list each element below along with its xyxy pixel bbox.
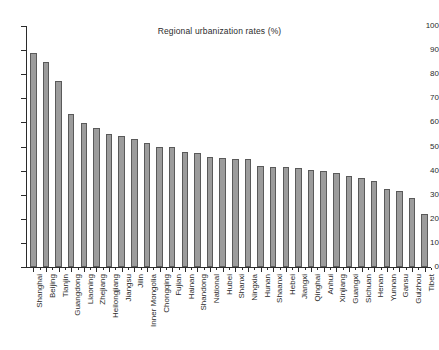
x-axis-tick: [59, 268, 60, 272]
bar[interactable]: [106, 134, 113, 268]
x-axis-tick: [248, 268, 249, 272]
bar[interactable]: [118, 136, 125, 267]
x-axis-tick-label: Fujian: [175, 274, 183, 296]
bars-layer: [27, 26, 431, 267]
x-axis-minor-tick: [280, 268, 281, 270]
x-axis-tick: [172, 268, 173, 272]
bar[interactable]: [169, 147, 176, 267]
bar[interactable]: [384, 189, 391, 267]
x-axis-tick-label: Tibet: [428, 274, 436, 292]
bar[interactable]: [93, 128, 100, 267]
bar[interactable]: [194, 153, 201, 267]
x-axis-minor-tick: [330, 268, 331, 270]
x-axis-tick: [336, 268, 337, 272]
x-axis-minor-tick: [229, 268, 230, 270]
x-axis-tick-label: Heilongjiang: [112, 274, 120, 318]
x-axis-minor-tick: [368, 268, 369, 270]
x-axis-tick-label: Anhui: [327, 274, 335, 294]
x-axis-tick-label: Zhejiang: [99, 274, 107, 305]
bar[interactable]: [320, 171, 327, 267]
x-axis-tick-label: Henan: [377, 274, 385, 298]
bar[interactable]: [421, 214, 428, 267]
bar[interactable]: [156, 147, 163, 267]
x-axis-tick: [185, 268, 186, 272]
x-axis-tick-label: Gansu: [402, 274, 410, 298]
x-axis-tick: [210, 268, 211, 272]
bar[interactable]: [81, 123, 88, 267]
x-axis-tick-label: Guangxi: [352, 274, 360, 304]
y-axis-tick: [21, 147, 26, 148]
x-axis-minor-tick: [418, 268, 419, 270]
x-axis-tick-label: Qinghai: [314, 274, 322, 302]
y-axis-tick: [21, 171, 26, 172]
bar[interactable]: [55, 81, 62, 267]
x-axis-tick: [122, 268, 123, 272]
y-axis-tick: [21, 98, 26, 99]
x-axis-tick-label: Hunan: [264, 274, 272, 298]
x-axis-tick: [286, 268, 287, 272]
bar[interactable]: [283, 167, 290, 267]
bar[interactable]: [257, 166, 264, 267]
x-axis-tick-label: Liaoning: [87, 274, 95, 304]
x-axis-minor-tick: [267, 268, 268, 270]
x-axis-minor-tick: [292, 268, 293, 270]
bar[interactable]: [232, 159, 239, 267]
x-axis-tick-label: Shanxi: [238, 274, 246, 298]
x-axis-minor-tick: [128, 268, 129, 270]
x-axis-minor-tick: [153, 268, 154, 270]
x-axis-minor-tick: [204, 268, 205, 270]
bar[interactable]: [245, 159, 252, 267]
x-axis-minor-tick: [78, 268, 79, 270]
x-axis-tick: [362, 268, 363, 272]
bar[interactable]: [43, 62, 50, 267]
x-axis-minor-tick: [305, 268, 306, 270]
bar[interactable]: [30, 53, 37, 267]
y-axis-tick: [21, 267, 26, 268]
bar[interactable]: [68, 114, 75, 267]
x-axis-tick-label: Shaanxi: [276, 274, 284, 303]
bar[interactable]: [308, 170, 315, 267]
x-axis-tick-label: Hebei: [289, 274, 297, 295]
x-axis-tick: [324, 268, 325, 272]
x-axis-minor-tick: [40, 268, 41, 270]
bar[interactable]: [270, 167, 277, 267]
bar[interactable]: [295, 168, 302, 267]
bar[interactable]: [346, 176, 353, 267]
x-axis-tick: [412, 268, 413, 272]
x-axis-minor-tick: [431, 268, 432, 270]
x-axis-tick-label: Yunnan: [390, 274, 398, 301]
bar[interactable]: [131, 139, 138, 267]
x-axis-tick: [160, 268, 161, 272]
x-axis-tick-label: Jiangxi: [301, 274, 309, 299]
bar[interactable]: [144, 143, 151, 267]
y-axis-tick: [21, 26, 26, 27]
x-axis-tick: [46, 268, 47, 272]
x-axis-minor-tick: [381, 268, 382, 270]
x-axis-tick-label: Jilin: [137, 274, 145, 288]
y-axis-tick: [21, 195, 26, 196]
bar[interactable]: [371, 181, 378, 267]
x-axis-minor-tick: [355, 268, 356, 270]
x-axis-minor-tick: [254, 268, 255, 270]
x-axis-minor-tick: [141, 268, 142, 270]
x-axis-minor-tick: [406, 268, 407, 270]
x-axis-minor-tick: [343, 268, 344, 270]
x-axis-minor-tick: [393, 268, 394, 270]
chart-figure: Regional urbanization rates (%) 01020304…: [0, 0, 439, 350]
bar[interactable]: [182, 152, 189, 267]
bar[interactable]: [396, 191, 403, 267]
x-axis-tick: [311, 268, 312, 272]
x-axis-tick-label: Shanghai: [36, 274, 44, 308]
bar[interactable]: [333, 173, 340, 267]
bar[interactable]: [219, 158, 226, 267]
bar[interactable]: [207, 157, 214, 267]
x-axis-minor-tick: [242, 268, 243, 270]
x-axis-tick: [147, 268, 148, 272]
bar[interactable]: [358, 178, 365, 267]
bar[interactable]: [409, 198, 416, 267]
x-axis-tick-label: Beijing: [49, 274, 57, 298]
x-axis-tick-label: Chongqing: [163, 274, 171, 313]
y-axis-tick: [21, 50, 26, 51]
x-axis-tick: [33, 268, 34, 272]
x-axis-tick-label: Ningxia: [251, 274, 259, 301]
